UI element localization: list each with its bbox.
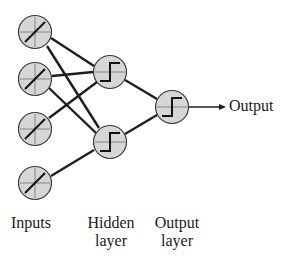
output-layer-label: Output layer	[152, 214, 202, 250]
edge-h2-o	[125, 115, 157, 134]
edges-hidden-output	[125, 80, 157, 134]
hidden-layer-label-line2: layer	[86, 232, 136, 250]
hidden-layer-label-line1: Hidden	[86, 214, 136, 232]
output-arrow	[189, 104, 226, 110]
output-layer-label-line2: layer	[152, 232, 202, 250]
edge-i4-h2	[51, 150, 94, 176]
input-node-3	[19, 113, 52, 146]
edge-i2-h1	[52, 72, 93, 76]
output-node	[156, 91, 189, 124]
output-layer-label-line1: Output	[152, 214, 202, 232]
hidden-node-2	[94, 126, 127, 159]
output-arrow-label: Output	[229, 97, 273, 115]
edge-h1-o	[125, 80, 157, 99]
edges-input-hidden	[47, 38, 99, 176]
inputs-layer-label: Inputs	[11, 214, 51, 232]
hidden-node-1	[94, 56, 127, 89]
input-node-2	[19, 63, 52, 96]
input-node-1	[19, 16, 52, 49]
input-node-4	[19, 167, 52, 200]
hidden-layer-label: Hidden layer	[86, 214, 136, 250]
